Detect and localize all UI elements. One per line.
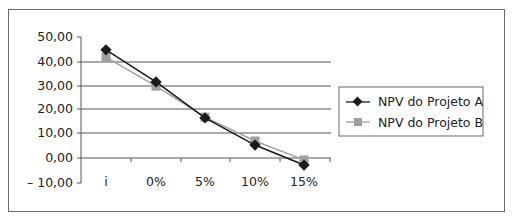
y-tick-label: – 10,00 [27, 175, 73, 190]
legend-label: NPV do Projeto B [378, 115, 483, 130]
square-marker-icon [354, 118, 362, 126]
y-tick-label: 40,00 [37, 54, 73, 69]
y-tick-label: 50,00 [37, 29, 73, 44]
legend-label: NPV do Projeto A [378, 94, 483, 109]
x-tick-label: i [104, 174, 107, 189]
y-tick-label: 10,00 [37, 125, 73, 140]
y-tick-label: 30,00 [37, 78, 73, 93]
series-layer [100, 44, 309, 170]
x-tick-label: 5% [195, 174, 215, 189]
x-tick-label: 15% [290, 174, 318, 189]
y-tick-labels: 50,00 40,00 30,00 20,00 10,00 0,00 – 10,… [27, 29, 73, 190]
y-tick-label: 20,00 [37, 101, 73, 116]
x-tick-labels: i 0% 5% 10% 15% [104, 174, 318, 189]
y-tick-label: 0,00 [45, 150, 73, 165]
y-axis [77, 37, 81, 183]
npv-line-chart: 50,00 40,00 30,00 20,00 10,00 0,00 – 10,… [0, 0, 517, 222]
x-tick-label: 0% [146, 174, 166, 189]
legend: NPV do Projeto A NPV do Projeto B [339, 87, 483, 136]
x-tick-label: 10% [241, 174, 269, 189]
